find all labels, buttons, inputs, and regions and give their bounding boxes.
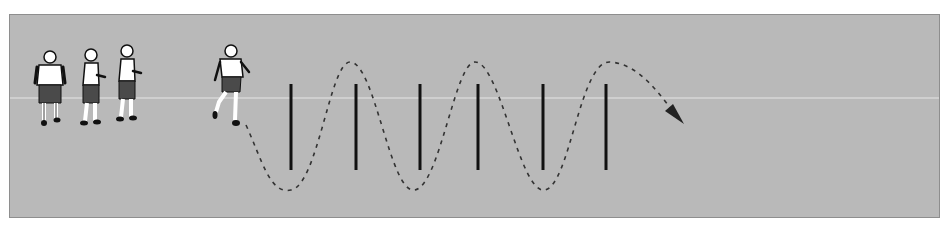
waiting-player-2 <box>80 49 105 126</box>
drill-diagram <box>0 0 947 230</box>
waiting-player-3 <box>116 45 141 122</box>
waiting-player-1 <box>35 51 65 126</box>
poles <box>291 84 606 170</box>
arrow-head-icon <box>665 104 684 124</box>
active-player <box>213 45 250 126</box>
dribble-path <box>246 62 678 191</box>
